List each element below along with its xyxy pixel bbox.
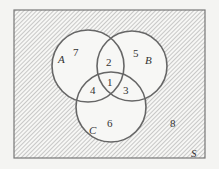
set-label-c: C: [89, 124, 97, 136]
set-label-a: A: [57, 53, 65, 65]
region-1: 1: [107, 76, 113, 88]
set-label-b: B: [145, 54, 152, 66]
region-3: 3: [123, 84, 129, 96]
universe-label: S: [191, 147, 197, 159]
region-7: 7: [73, 46, 79, 58]
region-4: 4: [90, 84, 96, 96]
region-8: 8: [170, 117, 176, 129]
venn-diagram: A B C S 1 2 3 4 5 6 7 8: [0, 0, 219, 169]
region-2: 2: [106, 56, 112, 68]
region-5: 5: [133, 47, 139, 59]
region-6: 6: [107, 117, 113, 129]
